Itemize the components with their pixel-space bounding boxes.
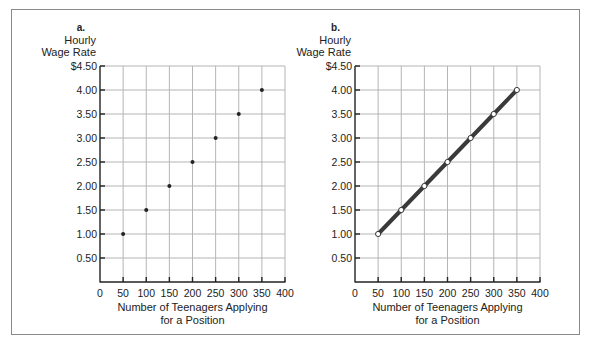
x-tick-label: 350 (508, 287, 526, 299)
data-point (237, 112, 241, 116)
y-tick-label: 2.50 (77, 156, 98, 168)
data-point (376, 231, 381, 236)
x-axis-title: for a Position (160, 314, 224, 326)
data-point (491, 111, 496, 116)
x-tick-label: 300 (230, 287, 248, 299)
y-tick-label: 3.00 (77, 132, 98, 144)
data-point (514, 87, 519, 92)
x-tick-label: 150 (161, 287, 179, 299)
data-point (144, 208, 148, 212)
x-tick-label: 150 (416, 287, 434, 299)
y-tick-label: 1.00 (77, 228, 98, 240)
y-tick-label: 3.50 (332, 108, 353, 120)
y-tick-label: 0.50 (332, 252, 353, 264)
y-tick-label: 0.50 (77, 252, 98, 264)
data-point (260, 88, 264, 92)
x-tick-label: 50 (372, 287, 384, 299)
panel-a-chart: 0.501.001.502.002.503.003.504.00$4.50050… (41, 22, 294, 326)
data-point (468, 135, 473, 140)
panel-label: b. (331, 22, 340, 33)
x-tick-label: 300 (485, 287, 503, 299)
x-tick-label: 350 (253, 287, 271, 299)
y-tick-label: 1.50 (77, 204, 98, 216)
y-tick-label: 2.00 (332, 180, 353, 192)
y-tick-label: 2.50 (332, 156, 353, 168)
x-tick-label: 200 (439, 287, 457, 299)
y-tick-label: $4.50 (71, 60, 97, 72)
x-tick-label: 400 (531, 287, 549, 299)
y-axis-title: Hourly (319, 34, 351, 46)
x-tick-label: 50 (117, 287, 129, 299)
x-axis-title: Number of Teenagers Applying (372, 301, 522, 313)
y-tick-label: 1.50 (332, 204, 353, 216)
x-tick-label: 200 (184, 287, 202, 299)
chart-canvas: 0.501.001.502.002.503.003.504.00$4.50050… (0, 0, 589, 338)
y-axis-title: Wage Rate (296, 46, 351, 58)
x-axis-title: for a Position (415, 314, 479, 326)
y-tick-label: 3.50 (77, 108, 98, 120)
x-tick-label: 100 (392, 287, 410, 299)
data-point (167, 184, 171, 188)
y-axis-title: Wage Rate (41, 46, 96, 58)
y-tick-label: 4.00 (332, 84, 353, 96)
y-tick-label: 3.00 (332, 132, 353, 144)
panel-label: a. (77, 22, 86, 33)
panel-b-chart: 0.501.001.502.002.503.003.504.00$4.50050… (296, 22, 549, 326)
x-tick-label: 250 (207, 287, 225, 299)
data-point (422, 183, 427, 188)
y-tick-label: 4.00 (77, 84, 98, 96)
y-tick-label: 1.00 (332, 228, 353, 240)
y-tick-label: 2.00 (77, 180, 98, 192)
y-axis-title: Hourly (64, 34, 96, 46)
data-point (214, 136, 218, 140)
data-point (399, 207, 404, 212)
x-axis-title: Number of Teenagers Applying (117, 301, 267, 313)
x-tick-label: 250 (462, 287, 480, 299)
data-point (191, 160, 195, 164)
data-point (121, 232, 125, 236)
x-tick-label: 0 (97, 287, 103, 299)
x-tick-label: 100 (137, 287, 155, 299)
x-tick-label: 400 (276, 287, 294, 299)
x-tick-label: 0 (352, 287, 358, 299)
data-point (445, 159, 450, 164)
y-tick-label: $4.50 (326, 60, 352, 72)
